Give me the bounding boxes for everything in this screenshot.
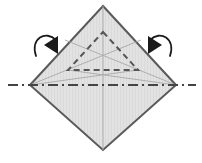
origami-diagram-container [0,0,202,163]
origami-fold-figure [0,0,202,163]
